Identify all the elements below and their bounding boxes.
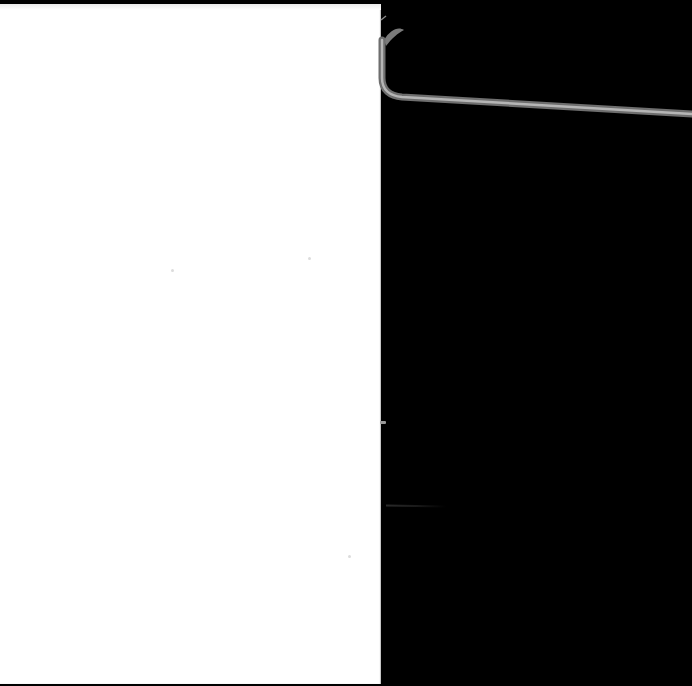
gray-wire (0, 0, 692, 686)
wire-flap (384, 28, 404, 46)
photo-scene (0, 0, 692, 686)
edge-glint (380, 421, 386, 424)
